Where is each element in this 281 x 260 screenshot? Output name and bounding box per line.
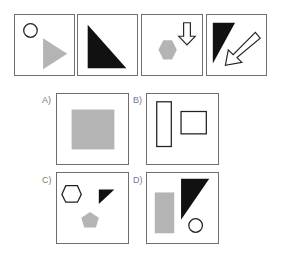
option-a[interactable] bbox=[56, 93, 129, 165]
circle-triangle-figure bbox=[15, 15, 74, 75]
black-right-triangle-figure bbox=[78, 15, 137, 75]
sequence-box-2 bbox=[77, 14, 138, 76]
sequence-box-1 bbox=[14, 14, 75, 76]
option-c[interactable] bbox=[56, 172, 129, 244]
hexagon-arrow-figure bbox=[142, 15, 202, 75]
hexagon-triangle-pentagon-figure bbox=[57, 173, 128, 243]
option-d[interactable] bbox=[146, 172, 219, 244]
rectangle-triangle-circle-figure bbox=[147, 173, 218, 243]
sequence-box-3 bbox=[141, 14, 203, 76]
rectangles-figure bbox=[147, 94, 218, 164]
triangle-arrow-figure bbox=[207, 15, 266, 75]
option-c-label: C) bbox=[42, 175, 52, 185]
option-d-label: D) bbox=[133, 175, 143, 185]
option-a-label: A) bbox=[42, 95, 51, 105]
option-b[interactable] bbox=[146, 93, 219, 165]
gray-square-figure bbox=[57, 94, 128, 164]
sequence-box-4 bbox=[206, 14, 267, 76]
option-b-label: B) bbox=[133, 95, 142, 105]
